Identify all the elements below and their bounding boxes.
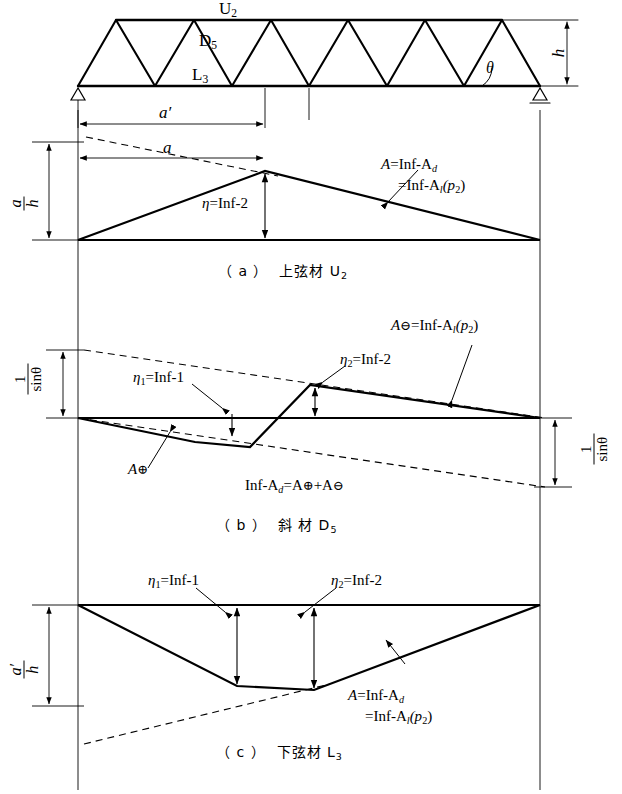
panel-b-left-axis-label: 1 sinθ [13, 337, 44, 395]
truss-top-chord-label: U2 [219, 0, 237, 20]
panel-a-caption: （ a ） 上弦材 U2 [218, 264, 348, 281]
panel-c-area-eq-line1: A=Inf-Ad [348, 688, 404, 706]
dim-a-label: a [163, 139, 172, 157]
truss-height-label: h [550, 49, 568, 58]
truss-diagonal-label: D5 [199, 32, 217, 52]
panel-a-axis-label: a h [8, 167, 41, 211]
panel-c-area-eq-line2: =Inf-Al(p2) [365, 709, 432, 727]
truss-bottom-chord-label: L3 [192, 66, 208, 86]
panel-a-area-eq-line2: =Inf-Al(p2) [398, 178, 465, 196]
panel-c-axis-label: a′ h [8, 635, 41, 679]
truss-diagonals [78, 20, 540, 86]
panel-b-eta1-leader [192, 384, 222, 408]
panel-b-eta1-label: η1=Inf-1 [133, 370, 184, 388]
support-pin-left [71, 88, 85, 100]
panel-b-curve [78, 385, 540, 447]
dim-a-prime-label: a′ [159, 104, 171, 122]
panel-b-apos-leader [148, 432, 170, 468]
panel-b-aneg-leader [452, 345, 472, 400]
panel-a-dashed-extension [86, 137, 278, 176]
panel-c-caption: （ c ） 下弦材 L3 [216, 745, 343, 762]
truss-angle-label: θ [486, 60, 494, 77]
panel-b-caption: （ b ） 斜 材 D5 [216, 518, 337, 535]
panel-b-eta2-label: η2=Inf-2 [340, 352, 391, 370]
panel-c-eta2-label: η2=Inf-2 [331, 573, 382, 591]
panel-a-area-eq-line1: A=Inf-Ad [381, 157, 437, 175]
panel-b-influence-line [46, 345, 572, 487]
frame-rules [78, 110, 540, 790]
panel-c-dashed-extension [84, 684, 330, 744]
support-roller-right [530, 88, 550, 103]
panel-c-eta1-leader [196, 588, 225, 612]
panel-b-area-negative-label: A⊖=Inf-Al(p2) [391, 318, 478, 336]
panel-b-sum-equation: Inf-Ad=A⊕+A⊖ [245, 478, 344, 496]
panel-c-eta2-leader [305, 588, 336, 612]
panel-b-right-axis-label: 1 sinθ [579, 407, 610, 465]
panel-a-eta-label: η=Inf-2 [202, 196, 248, 212]
figure-page: U2 D5 L3 h θ a′ a a h η=Inf-2 A=Inf-Ad =… [0, 0, 622, 794]
truss-diagram [71, 20, 578, 103]
panel-c-influence-line [32, 588, 540, 744]
panel-b-area-positive-label: A⊕ [128, 462, 148, 478]
figure-drawing [0, 0, 622, 794]
panel-c-eta1-label: η1=Inf-1 [148, 573, 199, 591]
panel-c-curve [78, 605, 540, 690]
witness-lines [78, 88, 309, 128]
panel-a-curve [78, 171, 540, 240]
